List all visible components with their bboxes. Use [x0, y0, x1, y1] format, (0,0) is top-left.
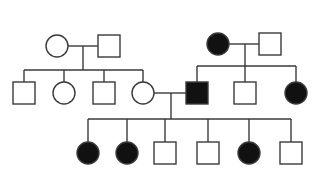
female-circle-II-4 [132, 82, 154, 104]
affected-female-circle-III-5 [238, 142, 260, 164]
individual-symbols [13, 33, 307, 164]
male-square-I-2 [98, 35, 120, 57]
male-square-III-6 [280, 142, 302, 164]
male-square-II-3 [93, 82, 115, 104]
affected-female-circle-III-2 [116, 142, 138, 164]
affected-female-circle-I-3 [207, 33, 229, 55]
affected-female-circle-III-1 [77, 142, 99, 164]
male-square-III-3 [154, 142, 176, 164]
female-circle-I-1 [46, 35, 68, 57]
male-square-II-6 [234, 82, 256, 104]
affected-male-square-II-5 [186, 82, 208, 104]
male-square-I-4 [259, 33, 281, 55]
male-square-III-4 [197, 142, 219, 164]
female-circle-II-2 [53, 82, 75, 104]
male-square-II-1 [13, 82, 35, 104]
pedigree-chart [0, 0, 318, 173]
affected-female-circle-II-7 [285, 82, 307, 104]
pedigree-diagram [0, 0, 318, 173]
